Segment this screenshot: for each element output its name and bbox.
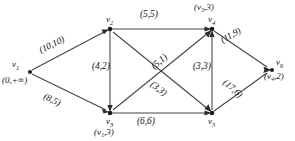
node-dot-v2 xyxy=(108,27,113,32)
edge-label-v2-v4: (5,5) xyxy=(140,10,158,20)
node-dot-v3 xyxy=(108,111,113,116)
node-label-v1: v1 xyxy=(12,60,19,71)
arrowhead-v1-v2 xyxy=(102,30,110,35)
node-tag-v3: (v₁,3) xyxy=(94,128,114,137)
node-tag-v6: (v₄,2) xyxy=(264,72,284,81)
node-label-v5: v5 xyxy=(208,117,215,128)
edge-label-v3-v5: (6,6) xyxy=(137,117,155,127)
node-label-v4: v4 xyxy=(208,15,215,26)
node-dot-v5 xyxy=(210,111,215,116)
node-tag-v1: (0,+∞) xyxy=(2,76,27,85)
edge-v3-v4 xyxy=(113,33,208,110)
node-label-v6: v6 xyxy=(276,58,283,69)
node-dot-v4 xyxy=(210,27,215,32)
edge-v1-v3 xyxy=(32,74,106,110)
edge-label-v5-v4: (3,3) xyxy=(193,62,211,72)
node-tag-v4: (v₃,3) xyxy=(194,3,214,12)
node-label-v2: v2 xyxy=(106,15,113,26)
network-flow-diagram: v1 (0,+∞) v2 v3 (v₁,3) v4 (v₃,3) v5 v6 (… xyxy=(0,0,295,141)
node-dot-v1 xyxy=(28,70,32,74)
edge-label-v2-v3: (4,2) xyxy=(92,62,110,72)
